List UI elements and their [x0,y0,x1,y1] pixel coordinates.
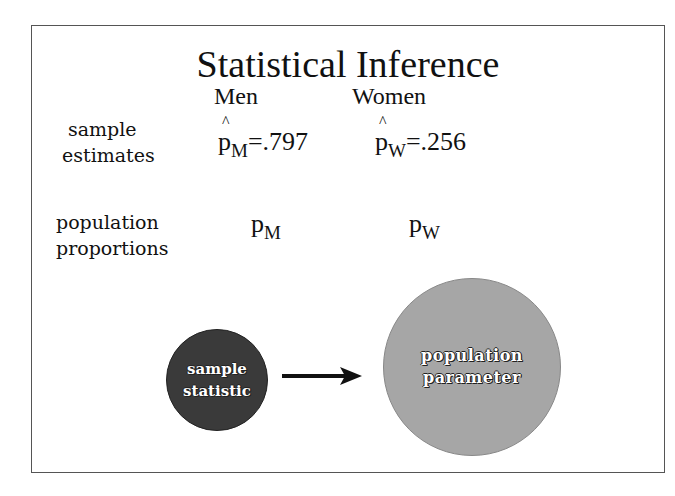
estimate-women-value: =.256 [406,127,466,156]
column-header-women: Women [352,83,426,110]
slide-title: Statistical Inference [32,42,664,86]
population-parameter-circle: population parameter [383,278,561,456]
row-label-line2: proportions [56,235,169,261]
row-label-line1: population [56,209,169,235]
parameter-men: pM [251,209,281,244]
estimate-women: ^pW=.256 [375,127,466,162]
sample-statistic-circle: sample statistic [166,329,268,431]
row-label-sample-estimates: sample estimates [62,116,155,168]
circle-label-line1: population [421,345,523,367]
subscript-men: M [231,140,248,161]
p-hat-symbol: ^p [375,127,388,157]
subscript-men: M [264,222,281,243]
estimate-men-value: =.797 [248,127,308,156]
circle-label-line2: parameter [421,367,523,389]
circle-label-line2: statistic [183,380,251,402]
column-header-men: Men [214,83,258,110]
p-hat-symbol: ^p [218,127,231,157]
row-label-population-proportions: population proportions [56,209,169,261]
subscript-women: W [422,222,440,243]
parameter-women: pW [409,209,440,244]
slide-frame: Statistical Inference Men Women sample e… [31,25,665,473]
subscript-women: W [388,140,406,161]
row-label-line2: estimates [62,142,155,168]
estimate-men: ^pM=.797 [218,127,308,162]
right-arrow-icon [282,366,362,386]
row-label-line1: sample [62,116,155,142]
circle-label-line1: sample [183,358,251,380]
